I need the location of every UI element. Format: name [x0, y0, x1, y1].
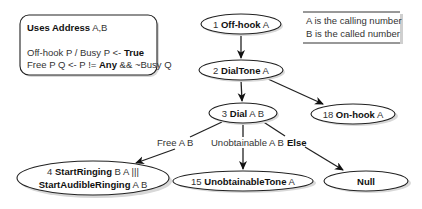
edge-3-to-null-b	[305, 147, 343, 170]
edges	[136, 34, 343, 170]
svg-text:Uses Address A,B: Uses Address A,B	[27, 22, 107, 33]
node-1-off-hook: 1 Off-hook A	[201, 14, 283, 36]
free-rule-suffix: && ~Busy Q	[117, 59, 172, 70]
svg-text:Off-hook P / Busy P <- True: Off-hook P / Busy P <- True	[27, 47, 144, 58]
svg-text:Free P Q <- P != Any && ~Busy: Free P Q <- P != Any && ~Busy Q	[27, 59, 172, 70]
svg-text:1 Off-hook A: 1 Off-hook A	[213, 19, 270, 30]
offhook-rule-prefix: Off-hook P / Busy P <-	[27, 47, 124, 58]
svg-text:3 Dial A B: 3 Dial A B	[222, 108, 264, 119]
edge-label-unobtainable: Unobtainable A B	[211, 137, 284, 148]
edge-3-to-4-b	[136, 149, 175, 163]
svg-text:StartAudibleRinging A B: StartAudibleRinging A B	[39, 179, 148, 190]
uses-address-args: A,B	[90, 22, 107, 33]
free-rule-prefix: Free P Q <- P !=	[27, 59, 99, 70]
node-null: Null	[324, 171, 411, 193]
edge-label-free: Free A B	[157, 137, 193, 148]
edge-2-to-3	[241, 80, 242, 101]
node-2-dialtone: 2 DialTone A	[199, 60, 285, 82]
node-4-start-ringing: 4 StartRinging B A ||| StartAudibleRingi…	[17, 161, 172, 198]
declarations-box: Uses Address A,B Off-hook P / Busy P <- …	[20, 15, 172, 77]
free-rule-any: Any	[99, 59, 118, 70]
legend: A is the calling number B is the called …	[303, 12, 403, 44]
node-18-on-hook: 18 On-hook A	[311, 104, 398, 126]
svg-text:15 UnobtainableTone A: 15 UnobtainableTone A	[191, 176, 295, 187]
state-diagram: Uses Address A,B Off-hook P / Busy P <- …	[0, 0, 422, 209]
uses-address-keyword: Uses Address	[27, 22, 90, 33]
edge-3-to-null-a	[262, 121, 285, 136]
svg-text:Null: Null	[357, 176, 375, 187]
svg-text:2 DialTone A: 2 DialTone A	[213, 65, 269, 76]
svg-text:4 StartRinging B A |||: 4 StartRinging B A |||	[47, 166, 139, 177]
legend-line-a: A is the calling number	[306, 15, 402, 26]
node-3-dial: 3 Dial A B	[209, 103, 279, 125]
svg-text:18 On-hook A: 18 On-hook A	[323, 109, 384, 120]
node-15-unobtainable-tone: 15 UnobtainableTone A	[173, 171, 316, 193]
edge-3-to-4-a	[190, 122, 222, 137]
edge-label-else: Else	[287, 137, 307, 148]
edge-2-to-18	[268, 79, 323, 104]
legend-line-b: B is the called number	[306, 28, 400, 39]
offhook-rule-value: True	[124, 47, 144, 58]
